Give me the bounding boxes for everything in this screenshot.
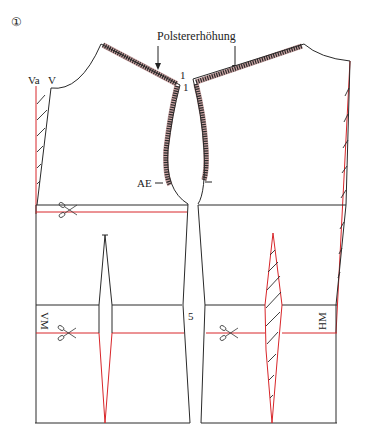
- label-point-1-left: 1: [183, 81, 189, 93]
- back-side-seam: [198, 205, 205, 423]
- figure-number: ①: [11, 15, 22, 29]
- back-neckline: [304, 44, 350, 61]
- label-va: Va: [28, 74, 40, 86]
- v-front-edge: [37, 88, 51, 205]
- label-ae: AE: [137, 177, 152, 189]
- front-dart: [99, 235, 112, 423]
- label-hm: HM: [316, 312, 328, 330]
- pattern-diagram: ① Polstererhöhung: [0, 0, 367, 448]
- back-centre-line: [336, 61, 350, 423]
- scissors-icon: [58, 202, 77, 219]
- back-centre-red-line: [336, 61, 350, 333]
- label-vm: VM: [39, 312, 51, 330]
- back-piece: [193, 44, 350, 423]
- label-5: 5: [188, 310, 194, 322]
- front-neckline: [51, 44, 101, 88]
- label-point-1-right: 1: [180, 69, 186, 81]
- back-dart: [265, 233, 282, 423]
- padding-annotation: Polstererhöhung: [157, 29, 236, 43]
- label-v: V: [48, 74, 56, 86]
- hatch-front-edge: [37, 95, 47, 184]
- front-piece: [35, 44, 190, 423]
- pattern-drawing: ① Polstererhöhung: [0, 0, 367, 448]
- arrow-icon-left: [155, 46, 161, 70]
